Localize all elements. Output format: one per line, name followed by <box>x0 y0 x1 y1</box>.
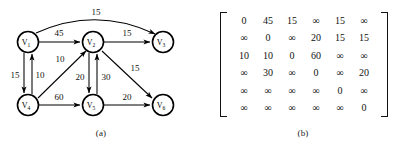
edge-weight-v1-v2: 45 <box>55 28 65 38</box>
edge-weight-v1-v4: 15 <box>11 70 21 80</box>
matrix-cell: ∞ <box>288 103 295 113</box>
figure-container: 15 45 15 15 10 10 20 30 15 <box>0 0 404 153</box>
matrix-cell: 15 <box>287 16 297 26</box>
node-v6[interactable]: V6 <box>153 95 174 116</box>
matrix-grid: 0 45 15 ∞ 15 ∞ ∞ 0 ∞ 20 15 15 10 10 0 60… <box>229 12 379 117</box>
matrix-cell: 45 <box>263 16 273 26</box>
matrix-cell: ∞ <box>264 103 271 113</box>
matrix-panel: 0 45 15 ∞ 15 ∞ ∞ 0 ∞ 20 15 15 10 10 0 60… <box>202 0 404 153</box>
edge-weight-v5-v2: 30 <box>102 72 112 82</box>
matrix-cell: ∞ <box>312 86 319 96</box>
matrix-cell: ∞ <box>360 51 367 61</box>
graph-diagram: 15 45 15 15 10 10 20 30 15 <box>0 0 202 126</box>
matrix-cell: 0 <box>290 51 295 61</box>
caption-a: (a) <box>0 128 202 138</box>
matrix-cell: 0 <box>242 16 247 26</box>
node-v2-subscript: 2 <box>93 42 96 48</box>
matrix-cell: ∞ <box>264 86 271 96</box>
matrix-cell: ∞ <box>288 33 295 43</box>
matrix-cell: ∞ <box>312 103 319 113</box>
matrix-cell: 15 <box>335 33 345 43</box>
matrix-cell: 0 <box>338 86 343 96</box>
node-v4[interactable]: V4 <box>18 95 39 116</box>
matrix-cell: 0 <box>362 103 367 113</box>
matrix-cell: 30 <box>263 68 273 78</box>
matrix-cell: ∞ <box>240 103 247 113</box>
matrix-cell: 0 <box>314 68 319 78</box>
matrix-cell: ∞ <box>336 103 343 113</box>
matrix-left-bracket <box>220 12 229 117</box>
matrix-cell: ∞ <box>360 86 367 96</box>
edge-weight-v5-v6: 20 <box>123 92 133 102</box>
matrix-cell: ∞ <box>240 33 247 43</box>
node-v5-subscript: 5 <box>93 105 96 111</box>
node-v3[interactable]: V3 <box>153 32 174 53</box>
matrix-cell: ∞ <box>336 68 343 78</box>
node-v5[interactable]: V5 <box>83 95 104 116</box>
matrix-cell: 10 <box>239 51 249 61</box>
matrix: 0 45 15 ∞ 15 ∞ ∞ 0 ∞ 20 15 15 10 10 0 60… <box>220 12 388 117</box>
caption-b: (b) <box>202 128 404 138</box>
matrix-cell: ∞ <box>288 68 295 78</box>
matrix-cell: 0 <box>266 33 271 43</box>
matrix-cell: ∞ <box>240 86 247 96</box>
node-v4-subscript: 4 <box>28 105 31 111</box>
matrix-cell: 15 <box>359 33 369 43</box>
node-v3-subscript: 3 <box>163 42 166 48</box>
matrix-cell: 10 <box>263 51 273 61</box>
matrix-cell: ∞ <box>336 51 343 61</box>
matrix-cell: 60 <box>311 51 321 61</box>
matrix-cell: ∞ <box>288 86 295 96</box>
edge-weight-v4-v2: 10 <box>56 54 66 64</box>
edge-weight-v4-v5: 60 <box>55 92 65 102</box>
node-v2[interactable]: V2 <box>83 32 104 53</box>
matrix-cell: ∞ <box>360 16 367 26</box>
node-v1-subscript: 1 <box>28 42 31 48</box>
matrix-cell: ∞ <box>312 16 319 26</box>
node-v6-subscript: 6 <box>163 105 166 111</box>
node-v1[interactable]: V1 <box>18 32 39 53</box>
matrix-cell: 20 <box>359 68 369 78</box>
edge-weight-v4-v1: 10 <box>36 70 46 80</box>
matrix-cell: ∞ <box>240 68 247 78</box>
graph-panel: 15 45 15 15 10 10 20 30 15 <box>0 0 202 153</box>
edge-weight-v1-v3: 15 <box>92 7 102 17</box>
matrix-cell: 15 <box>335 16 345 26</box>
edge-weight-v2-v3: 15 <box>123 28 133 38</box>
edge-weight-v2-v5: 20 <box>76 72 86 82</box>
matrix-cell: 20 <box>311 33 321 43</box>
matrix-right-bracket <box>379 12 388 117</box>
edge-weight-v2-v6: 15 <box>131 63 141 73</box>
